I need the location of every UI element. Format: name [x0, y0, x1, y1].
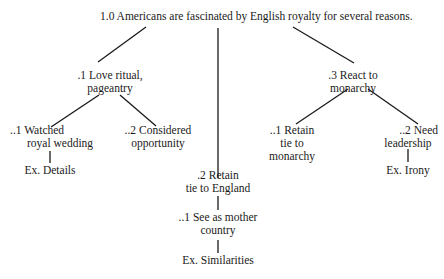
branch-3-1-line-2: tie to: [262, 137, 322, 150]
branch-1-1-example: Ex. Details: [15, 164, 85, 177]
edge-root-to-1: [98, 27, 146, 62]
branch-1-1-line-2: royal wedding: [10, 137, 90, 150]
branch-2-1-node: ..1 See as mother country: [173, 211, 263, 237]
branch-3-2-line-2: leadership: [378, 137, 438, 150]
branch-3-line-2: monarchy: [318, 82, 388, 95]
branch-2-1-example-text: Ex. Similarities: [178, 254, 258, 267]
branch-2-node: .2 Retain tie to England: [178, 169, 258, 195]
branch-1-2-line-2: opportunity: [118, 137, 198, 150]
branch-1-line-1: .1 Love ritual,: [65, 69, 155, 82]
branch-2-line-1: .2 Retain: [178, 169, 258, 182]
edge-root-to-3: [293, 27, 354, 63]
edge-1-to-1-1: [51, 95, 99, 127]
edge-1-to-1-2: [120, 95, 156, 126]
branch-2-1-line-1: ..1 See as mother: [173, 211, 263, 224]
branch-2-1-line-2: country: [173, 224, 263, 237]
branch-1-line-2: pageantry: [65, 82, 155, 95]
branch-3-2-example-text: Ex. Irony: [378, 164, 438, 177]
branch-3-1-node: ..1 Retain tie to monarchy: [262, 124, 322, 163]
branch-1-1-example-text: Ex. Details: [15, 164, 85, 177]
branch-1-1-node: ..1 Watched royal wedding: [10, 124, 90, 150]
root-text: 1.0 Americans are fascinated by English …: [100, 10, 344, 23]
branch-1-2-line-1: ..2 Considered: [118, 124, 198, 137]
branch-2-1-example: Ex. Similarities: [178, 254, 258, 267]
branch-3-2-node: ..2 Need leadership: [378, 124, 438, 150]
branch-3-1-line-3: monarchy: [262, 150, 322, 163]
root-node: 1.0 Americans are fascinated by English …: [100, 10, 344, 23]
branch-1-node: .1 Love ritual, pageantry: [65, 69, 155, 95]
branch-3-line-1: .3 React to: [318, 69, 388, 82]
branch-1-1-line-1: ..1 Watched: [10, 124, 90, 137]
branch-2-line-2: tie to England: [178, 182, 258, 195]
branch-3-2-line-1: ..2 Need: [378, 124, 438, 137]
branch-3-1-line-1: ..1 Retain: [262, 124, 322, 137]
branch-1-2-node: ..2 Considered opportunity: [118, 124, 198, 150]
branch-3-node: .3 React to monarchy: [318, 69, 388, 95]
branch-3-2-example: Ex. Irony: [378, 164, 438, 177]
